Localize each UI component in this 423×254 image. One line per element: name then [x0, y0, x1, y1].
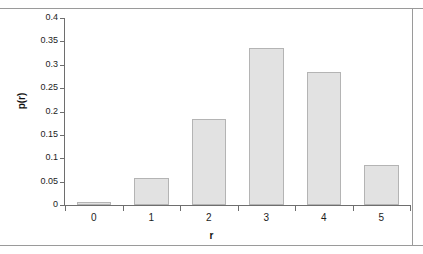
frame-bottom-rule — [0, 245, 423, 246]
x-tick-label: 5 — [378, 213, 384, 223]
y-tick-label: 0.05 — [0, 177, 58, 186]
bar — [249, 48, 284, 205]
bar-slot — [295, 18, 353, 205]
x-tick-mark — [353, 206, 354, 211]
bar-slot — [353, 18, 411, 205]
chart-figure: 00.050.10.150.20.250.30.350.4 012345 p(r… — [0, 0, 423, 254]
x-tick-label: 3 — [263, 213, 269, 223]
x-tick-label: 0 — [91, 213, 97, 223]
y-tick-label: 0 — [0, 200, 58, 209]
y-tick-label: 0.25 — [0, 83, 58, 92]
x-tick-mark — [65, 206, 66, 211]
x-tick-mark — [238, 206, 239, 211]
bar-slot — [238, 18, 296, 205]
y-tick-label: 0.15 — [0, 130, 58, 139]
bar-slot — [123, 18, 181, 205]
frame-right-rule — [412, 8, 413, 246]
x-tick-mark — [180, 206, 181, 211]
y-axis-title: p(r) — [17, 93, 27, 110]
y-tick-label: 0.2 — [0, 107, 58, 116]
bar — [134, 178, 169, 205]
bar-slot — [65, 18, 123, 205]
frame-top-rule — [0, 8, 423, 9]
bar-series — [65, 18, 410, 205]
x-axis-title: r — [0, 231, 423, 241]
y-tick-label: 0.3 — [0, 60, 58, 69]
bar — [192, 119, 227, 205]
x-tick-mark — [410, 206, 411, 211]
x-tick-label: 2 — [206, 213, 212, 223]
bar — [307, 72, 342, 205]
bar — [77, 202, 112, 205]
y-tick-label: 0.35 — [0, 36, 58, 45]
x-tick-mark — [123, 206, 124, 211]
y-tick-label: 0.1 — [0, 153, 58, 162]
x-tick-label: 4 — [321, 213, 327, 223]
x-tick-mark — [295, 206, 296, 211]
y-tick-label: 0.4 — [0, 13, 58, 22]
x-tick-label: 1 — [148, 213, 154, 223]
bar — [364, 165, 399, 205]
bar-slot — [180, 18, 238, 205]
